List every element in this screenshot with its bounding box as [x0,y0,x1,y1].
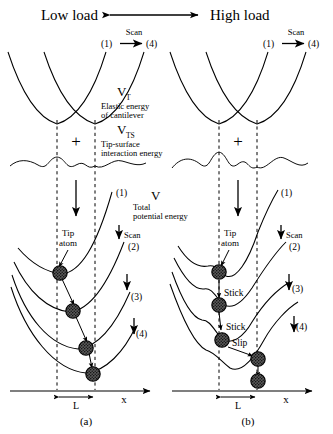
curve-label-1-b: (1) [281,188,292,199]
scan-step-label-b: Scan [286,230,303,240]
tip-atom-3-a [79,341,93,355]
panel-label-a: (a) [80,415,93,428]
plus-operator-a: + [71,132,81,151]
tip-atom-2-a [66,304,80,318]
scan-label-left: Scan [126,27,143,37]
x-axis-label-a: x [121,393,127,405]
tip-atom-1-a [53,266,67,280]
curve-label-3-b: (3) [292,284,303,295]
curve-label-1-a: (1) [116,188,127,199]
tip-atom-5-b [251,374,265,388]
tip-atom-4-a [86,367,100,381]
curve-label-2-b: (2) [289,242,300,253]
lattice-spacing-label-b: L [235,400,241,411]
stick-label-1-b: Stick [224,288,244,298]
tip-atom-label-line2-b: atom [221,238,239,248]
scan-end-label-right: (4) [308,39,319,50]
vts-description-line2: interaction energy [101,148,163,158]
slip-label-b: Slip [232,338,248,348]
vt-description-line2: of cantilever [101,110,144,120]
scan-start-label-left: (1) [101,39,112,50]
tip-atom-2-b [212,298,226,312]
plus-operator-b: + [233,132,243,151]
tip-atom-label-line2-a: atom [59,238,77,248]
tip-atom-label-line1-a: Tip [62,228,75,238]
lattice-spacing-label-a: L [73,400,79,411]
curve-label-4-a: (4) [136,329,147,340]
curve-label-3-a: (3) [131,292,142,303]
stick-slip-friction-figure: High load ============ --> Low load High… [0,0,333,434]
scan-start-label-right: (1) [263,39,274,50]
x-axis-label-b: x [283,393,289,405]
scan-end-label-left: (4) [146,39,157,50]
tip-atom-label-line1-b: Tip [224,228,237,238]
tip-atom-4-b [251,352,265,366]
v-description-line2: potential energy [133,211,189,221]
curve-label-4-b: (4) [296,322,307,333]
scan-label-right: Scan [288,27,305,37]
panel-label-b: (b) [242,415,255,428]
scan-step-label-a: Scan [124,230,141,240]
tip-atom-3-b [215,333,229,347]
low-load-label: Low load [41,7,99,23]
v-symbol: V [151,188,161,203]
high-load-label: High load [210,7,270,23]
tip-atom-1-b [212,265,226,279]
stick-label-2-b: Stick [226,322,246,332]
curve-label-2-a: (2) [128,242,139,253]
